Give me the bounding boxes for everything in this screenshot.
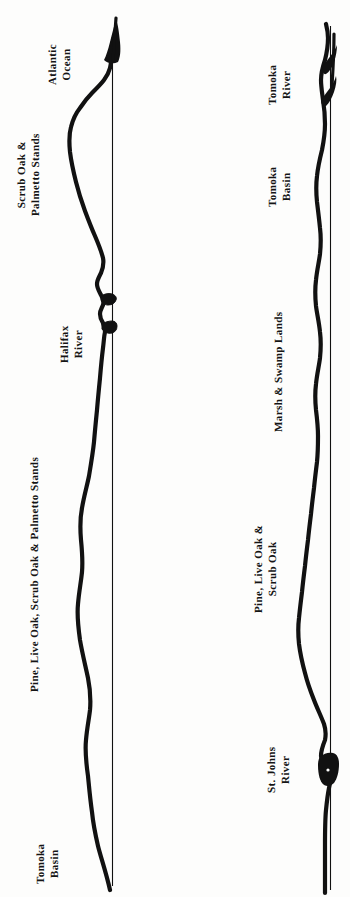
label-pine-live-oak-scrub-palmetto-text: Pine, Live Oak, Scrub Oak & Palmetto Sta… — [28, 457, 42, 692]
label-tomoka-basin-lower: Tomoka Basin — [266, 166, 294, 207]
label-halifax-river-line2: River — [72, 325, 86, 363]
label-tomoka-basin-lower-line1: Tomoka — [266, 166, 280, 207]
label-tomoka-river: Tomoka River — [266, 64, 294, 105]
label-scrub-oak-palmetto-line2: Palmetto Stands — [29, 133, 43, 216]
label-tomoka-river-line2: River — [280, 64, 294, 105]
label-pine-live-oak-scrub-oak: Pine, Live Oak & Scrub Oak — [252, 525, 280, 613]
tomoka-river-waterline — [332, 34, 334, 86]
label-pine-live-oak-scrub-oak-line2: Scrub Oak — [266, 525, 280, 613]
label-atlantic-ocean-line1: Atlantic — [46, 44, 60, 85]
label-st-johns-river-line1: St. Johns — [265, 747, 279, 793]
halifax-river-ink-mass — [102, 321, 117, 333]
label-marsh-swamp-lands: Marsh & Swamp Lands — [272, 312, 286, 432]
label-tomoka-basin-lower-line2: Basin — [280, 166, 294, 207]
label-scrub-oak-palmetto-line1: Scrub Oak & — [15, 133, 29, 216]
label-tomoka-river-line1: Tomoka — [266, 64, 280, 105]
label-st-johns-river-line2: River — [279, 747, 293, 793]
st-johns-river-ink-void — [326, 768, 329, 771]
label-pine-live-oak-scrub-palmetto: Pine, Live Oak, Scrub Oak & Palmetto Sta… — [28, 457, 42, 692]
lower-profile-svg — [175, 0, 350, 897]
label-marsh-swamp-lands-text: Marsh & Swamp Lands — [272, 312, 286, 432]
upper-profile-terrain-line — [69, 60, 111, 890]
label-pine-live-oak-scrub-oak-line1: Pine, Live Oak & — [252, 525, 266, 613]
label-tomoka-basin: Tomoka Basin — [34, 843, 62, 884]
cross-section-profile-lower — [175, 0, 350, 897]
label-tomoka-basin-line1: Tomoka — [34, 843, 48, 884]
label-atlantic-ocean-line2: Ocean — [60, 44, 74, 85]
label-atlantic-ocean: Atlantic Ocean — [46, 44, 74, 85]
label-tomoka-basin-line2: Basin — [48, 843, 62, 884]
label-halifax-river: Halifax River — [58, 325, 86, 363]
halifax-river-ink-mass-2 — [101, 294, 116, 305]
label-st-johns-river: St. Johns River — [265, 747, 293, 793]
label-scrub-oak-palmetto-stands: Scrub Oak & Palmetto Stands — [15, 133, 43, 216]
label-halifax-river-line1: Halifax — [58, 325, 72, 363]
